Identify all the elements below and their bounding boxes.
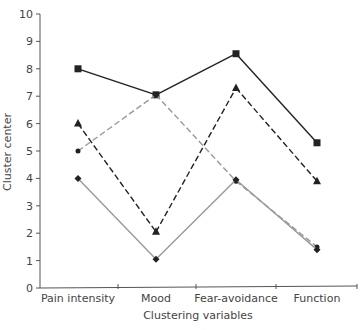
y-ticks: 012345678910 bbox=[19, 8, 40, 295]
data-point-circle bbox=[76, 149, 81, 154]
x-tick-label: Pain intensity bbox=[41, 292, 116, 305]
y-tick-label: 9 bbox=[26, 35, 33, 48]
x-axis-title: Clustering variables bbox=[143, 309, 253, 322]
y-tick-label: 7 bbox=[26, 90, 33, 103]
y-tick-label: 5 bbox=[26, 145, 33, 158]
series-line-segment bbox=[156, 180, 236, 259]
y-tick-label: 3 bbox=[26, 200, 33, 213]
series-line-segment bbox=[78, 69, 156, 95]
series-1 bbox=[75, 50, 321, 146]
y-tick-label: 2 bbox=[26, 227, 33, 240]
x-axis bbox=[40, 286, 357, 288]
series-line-segment bbox=[78, 178, 156, 259]
data-point-triangle bbox=[232, 83, 240, 91]
y-tick-label: 4 bbox=[26, 172, 33, 185]
data-point-square bbox=[75, 65, 82, 72]
y-tick-label: 1 bbox=[26, 255, 33, 268]
series-4 bbox=[75, 175, 321, 263]
series-group bbox=[74, 50, 321, 263]
data-point-square bbox=[314, 139, 321, 146]
series-line-segment bbox=[78, 95, 156, 151]
data-point-square bbox=[233, 50, 240, 57]
y-tick-label: 10 bbox=[19, 8, 33, 21]
y-axis-title: Cluster center bbox=[1, 113, 14, 191]
series-line-segment bbox=[156, 54, 236, 95]
x-tick-label: Mood bbox=[141, 292, 171, 305]
series-line-segment bbox=[236, 180, 317, 250]
y-tick-label: 8 bbox=[26, 63, 33, 76]
series-line-segment bbox=[236, 54, 317, 143]
series-line-segment bbox=[156, 88, 236, 232]
axes bbox=[40, 14, 357, 288]
data-point-circle bbox=[154, 92, 159, 97]
series-line-segment bbox=[236, 88, 317, 181]
y-tick-label: 6 bbox=[26, 118, 33, 131]
line-chart: 012345678910 Pain intensityMoodFear-avoi… bbox=[0, 0, 364, 330]
series-line-segment bbox=[156, 95, 236, 181]
x-tick-label: Fear-avoidance bbox=[194, 292, 278, 305]
x-tick-label: Function bbox=[294, 292, 341, 305]
y-tick-label: 0 bbox=[26, 282, 33, 295]
data-point-triangle bbox=[74, 119, 82, 127]
series-line-segment bbox=[78, 124, 156, 232]
